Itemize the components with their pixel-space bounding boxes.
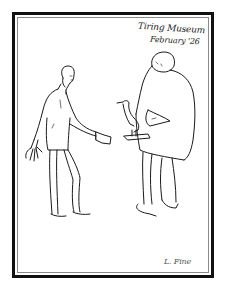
artist-signature: L. Fine	[164, 257, 191, 266]
stout-man-figure	[117, 52, 195, 216]
thin-man-figure	[26, 66, 111, 216]
